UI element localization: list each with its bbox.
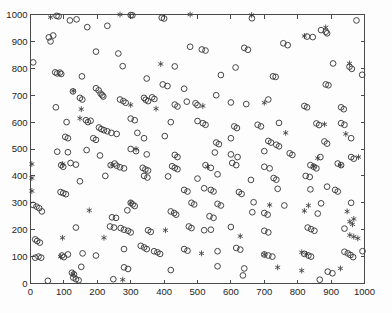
y-tick-label: 700: [12, 90, 28, 101]
y-tick-label: 500: [12, 143, 28, 154]
x-tick-label: 700: [256, 286, 272, 297]
x-tick-label: 300: [123, 286, 139, 297]
y-tick-label: 0: [22, 278, 27, 289]
x-tick-label: 400: [156, 286, 172, 297]
scatter-plot-svg: 01002003004005006007008009001000 0100200…: [0, 0, 392, 313]
y-tick-label: 200: [12, 224, 28, 235]
x-tick-label: 0: [28, 286, 33, 297]
x-tick-label: 100: [56, 286, 72, 297]
y-tick-label: 100: [12, 251, 28, 262]
x-tick-label: 800: [290, 286, 306, 297]
x-tick-label: 1000: [354, 286, 375, 297]
scatter-plot-figure: 01002003004005006007008009001000 0100200…: [0, 0, 392, 313]
plot-background: [0, 0, 392, 313]
x-tick-label: 900: [323, 286, 339, 297]
y-tick-label: 600: [12, 117, 28, 128]
y-tick-label: 800: [12, 63, 28, 74]
y-tick-label: 400: [12, 170, 28, 181]
y-tick-label: 900: [12, 36, 28, 47]
y-tick-label: 300: [12, 197, 28, 208]
x-tick-label: 600: [223, 286, 239, 297]
y-tick-label: 1000: [6, 9, 27, 20]
x-tick-label: 500: [190, 286, 206, 297]
x-tick-label: 200: [89, 286, 105, 297]
